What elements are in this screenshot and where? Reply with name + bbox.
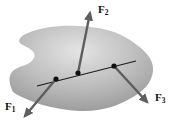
rigid-body-blob: [10, 26, 154, 111]
application-point-dot-right: [111, 63, 116, 68]
application-point-dot-middle: [75, 70, 80, 75]
force-label-f1-subscript: 1: [12, 105, 16, 114]
force-label-f3: F3: [155, 91, 166, 105]
force-label-f2: F2: [98, 3, 109, 17]
force-label-f1: F1: [5, 100, 16, 114]
force-diagram-figure: F1 F2 F3: [0, 0, 172, 124]
application-point-dot-left: [53, 76, 58, 81]
force-diagram-svg: F1 F2 F3: [0, 0, 172, 124]
force-label-f3-subscript: 3: [162, 96, 166, 105]
force-label-f2-subscript: 2: [105, 8, 109, 17]
